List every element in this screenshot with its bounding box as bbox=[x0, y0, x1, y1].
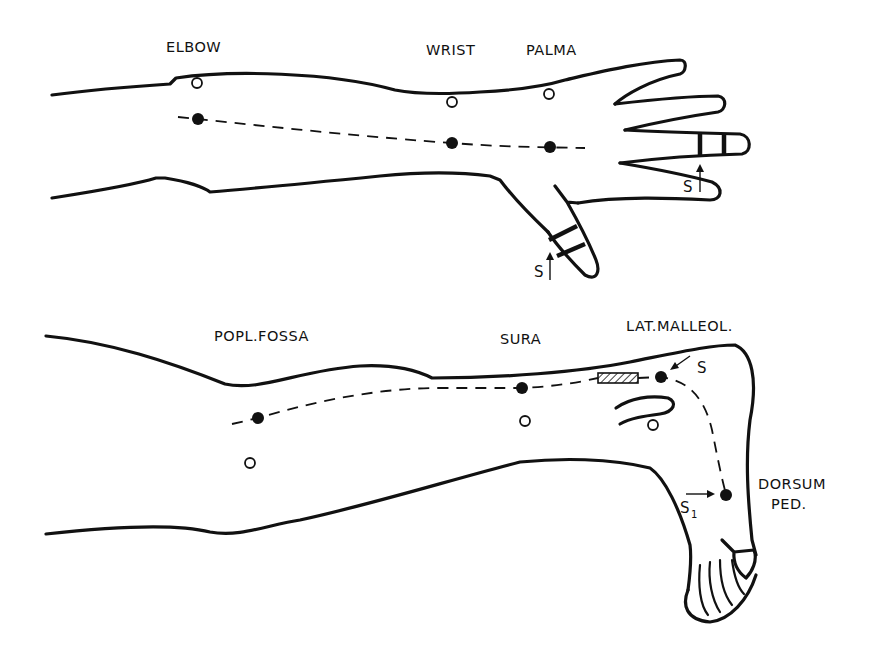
label-palma: PALMA bbox=[526, 42, 577, 58]
dorsum-ped-stimulation-point bbox=[720, 489, 732, 501]
arm-upper-contour bbox=[52, 60, 685, 104]
label-sura: SURA bbox=[500, 331, 541, 347]
finger-stimulus-label: S bbox=[683, 178, 693, 196]
leg-lower-contour bbox=[46, 460, 691, 590]
limb-diagram: ELBOW WRIST PALMA S S bbox=[0, 0, 882, 661]
arm-lower-contour bbox=[52, 173, 548, 232]
thumb-stimulus-arrow-icon bbox=[546, 252, 554, 280]
leg-drawing: POPL.FOSSA SURA LAT.MALLEOL. DORSUM PED.… bbox=[46, 318, 826, 622]
malleolus-stimulus-label: S bbox=[697, 359, 707, 377]
label-lat-malleol: LAT.MALLEOL. bbox=[626, 318, 733, 334]
palma-stimulation-point bbox=[544, 141, 556, 153]
dorsum-stimulus-label-group: S 1 bbox=[680, 499, 697, 520]
label-dorsum: DORSUM bbox=[758, 476, 826, 492]
sura-stimulation-point bbox=[516, 382, 528, 394]
label-elbow: ELBOW bbox=[166, 39, 221, 55]
recording-electrode-bar bbox=[598, 373, 638, 383]
popl-fossa-stimulation-point bbox=[252, 412, 264, 424]
lat-malleol-stimulation-point bbox=[655, 371, 667, 383]
sural-nerve-course bbox=[232, 377, 726, 494]
dorsum-stimulus-arrow-icon bbox=[686, 490, 715, 498]
elbow-reference-point bbox=[192, 78, 202, 88]
wrist-stimulation-point bbox=[446, 137, 458, 149]
popl-fossa-reference-point bbox=[245, 458, 255, 468]
dorsum-stimulus-label: S bbox=[680, 499, 690, 517]
foot-toes bbox=[686, 540, 756, 622]
index-finger bbox=[615, 96, 725, 130]
sura-reference-point bbox=[520, 416, 530, 426]
thumb-stimulus-label: S bbox=[534, 263, 544, 281]
malleolus-stimulus-arrow-icon bbox=[670, 356, 690, 370]
middle-finger bbox=[620, 130, 749, 163]
arm-drawing: ELBOW WRIST PALMA S S bbox=[52, 39, 749, 281]
elbow-stimulation-point bbox=[192, 113, 204, 125]
ankle-contour bbox=[616, 397, 674, 424]
wrist-reference-point bbox=[447, 97, 457, 107]
thumb-ring-electrode-1 bbox=[549, 226, 577, 240]
label-popl-fossa: POPL.FOSSA bbox=[214, 328, 309, 344]
dorsum-stimulus-subscript: 1 bbox=[691, 509, 697, 520]
label-ped: PED. bbox=[771, 496, 807, 512]
leg-upper-contour bbox=[46, 336, 756, 555]
label-wrist: WRIST bbox=[426, 42, 475, 58]
median-nerve-course bbox=[178, 117, 585, 148]
lat-malleol-reference-point bbox=[648, 420, 658, 430]
palma-reference-point bbox=[544, 89, 554, 99]
